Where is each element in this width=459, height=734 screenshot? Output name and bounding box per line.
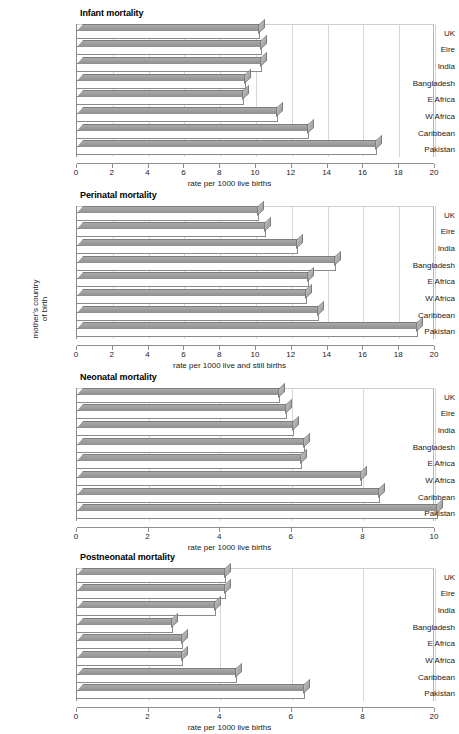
category-label: W Africa (387, 476, 459, 486)
bar-top-face (77, 256, 341, 263)
x-tick-label: 6 (181, 350, 185, 359)
category-label: India (387, 244, 459, 254)
chart-panel-1: Infant mortalityUKEireIndiaBangladeshE A… (0, 8, 459, 190)
bar (76, 574, 226, 583)
x-tick-label: 20 (430, 350, 439, 359)
x-tick-label: 10 (251, 350, 260, 359)
x-tick-label: 0 (74, 712, 78, 721)
category-label: Eire (387, 45, 459, 55)
x-tick-label: 16 (358, 168, 367, 177)
x-tick-label: 18 (394, 350, 403, 359)
category-label: W Africa (387, 112, 459, 122)
category-label: Bangladesh (387, 443, 459, 453)
bar-top-face (77, 601, 221, 608)
bar-top-face (77, 222, 271, 229)
bar (76, 510, 438, 519)
x-tick-label: 0 (74, 350, 78, 359)
category-label: E Africa (387, 639, 459, 649)
bar (76, 690, 305, 699)
x-tick-label: 16 (358, 350, 367, 359)
bar-top-face (77, 239, 303, 246)
category-label: UK (387, 393, 459, 403)
bar (76, 328, 418, 337)
bar-top-face (77, 289, 312, 296)
category-label: Bangladesh (387, 79, 459, 89)
bar (76, 312, 319, 321)
bar-top-face (77, 584, 232, 591)
bar-top-face (77, 651, 189, 658)
x-tick-label: 4 (145, 168, 149, 177)
bar (76, 228, 266, 237)
bar (76, 295, 307, 304)
x-tick-label: 0 (74, 532, 78, 541)
x-tick-label: 2 (145, 532, 149, 541)
x-axis-label: rate per 1000 live births (0, 723, 459, 732)
bar-top-face (77, 438, 310, 445)
chart-title: Neonatal mortality (80, 372, 157, 382)
x-axis-label: rate per 1000 live and still births (0, 361, 459, 370)
bar-top-face (77, 618, 178, 625)
x-tick-label: 12 (286, 350, 295, 359)
chart-title: Postneonatal mortality (80, 552, 175, 562)
category-label: Pakistan (387, 509, 459, 519)
x-tick-label: 2 (110, 350, 114, 359)
plot-floor (77, 520, 434, 528)
bar (76, 477, 362, 486)
x-tick-label: 10 (430, 532, 439, 541)
category-label: Bangladesh (387, 261, 459, 271)
bar (76, 113, 278, 122)
bar-top-face (77, 24, 266, 31)
bar-top-face (77, 272, 314, 279)
bar-top-face (77, 488, 386, 495)
bar (76, 278, 309, 287)
x-tick-label: 4 (217, 532, 221, 541)
x-tick-label: 2 (145, 712, 149, 721)
category-label: Pakistan (387, 689, 459, 699)
bar-top-face (77, 124, 314, 131)
bar-top-face (77, 404, 293, 411)
category-label: Eire (387, 589, 459, 599)
bar-top-face (77, 471, 368, 478)
chart-title: Infant mortality (80, 8, 143, 18)
plot-floor (77, 338, 434, 346)
bar-top-face (77, 306, 325, 313)
x-tick-label: 10 (251, 168, 260, 177)
category-label: Pakistan (387, 145, 459, 155)
gridline (328, 24, 329, 157)
bar-top-face (77, 421, 300, 428)
category-label: Eire (387, 227, 459, 237)
bar-top-face (77, 40, 267, 47)
bar (76, 657, 183, 666)
gridline (363, 24, 364, 157)
bar (76, 80, 246, 89)
bar-top-face (77, 57, 267, 64)
category-label: E Africa (387, 459, 459, 469)
category-label: Bangladesh (387, 623, 459, 633)
bar-top-face (77, 107, 284, 114)
x-tick-label: 2 (110, 168, 114, 177)
bar (76, 245, 298, 254)
gridline (363, 568, 364, 701)
bar (76, 212, 259, 221)
bar (76, 30, 260, 39)
bar-top-face (77, 668, 242, 675)
bar (76, 130, 309, 139)
bar (76, 590, 226, 599)
category-label: Caribbean (387, 673, 459, 683)
category-label: E Africa (387, 95, 459, 105)
bar (76, 444, 305, 453)
bar (76, 427, 294, 436)
category-label: UK (387, 573, 459, 583)
bar-top-face (77, 388, 285, 395)
category-label: UK (387, 29, 459, 39)
bar-top-face (77, 634, 189, 641)
category-label: W Africa (387, 656, 459, 666)
bar (76, 96, 244, 105)
bar-top-face (77, 74, 251, 81)
x-tick-label: 8 (360, 712, 364, 721)
bar (76, 394, 280, 403)
x-tick-label: 12 (286, 168, 295, 177)
category-label: India (387, 62, 459, 72)
bar (76, 63, 262, 72)
